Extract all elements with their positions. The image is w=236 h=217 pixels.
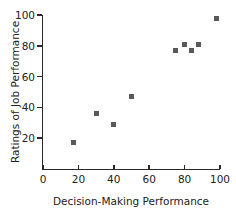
y-axis-tick <box>37 14 42 16</box>
y-axis-tick-label: 80 <box>1 40 35 52</box>
plot-area: 02040608010020406080100 <box>42 15 220 170</box>
data-point <box>94 111 99 116</box>
x-axis-tick-label: 60 <box>143 173 156 185</box>
y-axis-tick-label: 60 <box>1 71 35 83</box>
y-axis-tick <box>37 76 42 78</box>
y-axis-tick <box>37 45 42 47</box>
y-axis-tick-label: 40 <box>1 101 35 113</box>
data-point <box>182 42 187 47</box>
x-axis-tick-label: 80 <box>178 173 191 185</box>
x-axis-tick-label: 0 <box>40 173 47 185</box>
y-axis-tick-label: 100 <box>1 9 35 21</box>
data-point <box>196 42 201 47</box>
x-axis-tick-label: 100 <box>210 173 230 185</box>
data-point <box>189 48 194 53</box>
data-point <box>214 16 219 21</box>
data-point <box>173 48 178 53</box>
x-axis-tick <box>113 165 115 170</box>
x-axis-tick-label: 40 <box>107 173 120 185</box>
x-axis-title: Decision-Making Performance <box>42 195 220 207</box>
scatter-chart: Ratings of Job Performance 0204060801002… <box>0 0 236 217</box>
x-axis-tick <box>148 165 150 170</box>
y-axis-tick <box>37 107 42 109</box>
y-axis-tick-label: 20 <box>1 132 35 144</box>
x-axis-tick-label: 20 <box>72 173 85 185</box>
data-point <box>71 140 76 145</box>
x-axis-tick <box>42 165 44 170</box>
x-axis-tick <box>78 165 80 170</box>
data-point <box>129 94 134 99</box>
x-axis-tick <box>184 165 186 170</box>
y-axis-tick <box>37 137 42 139</box>
data-point <box>111 122 116 127</box>
x-axis-tick <box>219 165 221 170</box>
